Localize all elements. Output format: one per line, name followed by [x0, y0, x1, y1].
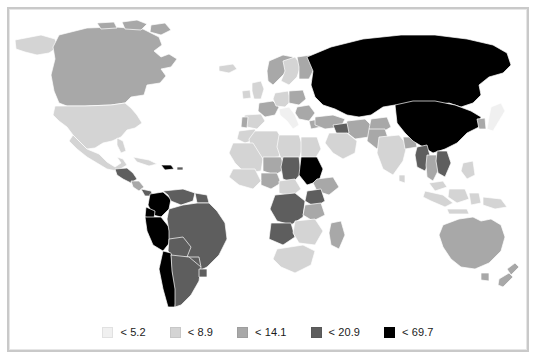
- country-korea: [477, 118, 486, 129]
- map-legend: < 5.2 < 8.9 < 14.1 < 20.9 < 69.7: [11, 318, 525, 346]
- legend-label-1: < 8.9: [188, 326, 213, 338]
- world-map-canvas: [11, 11, 525, 311]
- legend-swatch-icon-0: [102, 327, 113, 338]
- country-ireland: [242, 90, 251, 99]
- legend-label-2: < 14.1: [255, 326, 287, 338]
- country-portugal: [241, 117, 248, 128]
- legend-label-4: < 69.7: [402, 326, 434, 338]
- legend-item-1[interactable]: < 8.9: [170, 326, 213, 338]
- legend-item-2[interactable]: < 14.1: [237, 326, 287, 338]
- legend-swatch-icon-2: [237, 327, 248, 338]
- legend-item-4[interactable]: < 69.7: [384, 326, 434, 338]
- legend-swatch-icon-3: [311, 327, 322, 338]
- country-indonesia-java: [447, 209, 469, 214]
- legend-swatch-icon-4: [384, 327, 395, 338]
- country-uruguay: [199, 269, 207, 277]
- choropleth-map-figure: < 5.2 < 8.9 < 14.1 < 20.9 < 69.7: [0, 0, 536, 359]
- country-canada-arctic-3: [97, 22, 117, 29]
- legend-item-3[interactable]: < 20.9: [311, 326, 361, 338]
- country-puerto-rico: [177, 167, 183, 170]
- country-libya: [277, 135, 303, 159]
- legend-swatch-icon-1: [170, 327, 181, 338]
- legend-item-0[interactable]: < 5.2: [102, 326, 145, 338]
- country-indonesia-sulawesi: [469, 193, 481, 205]
- country-tasmania: [481, 273, 489, 281]
- world-map-svg: [11, 11, 525, 311]
- legend-label-3: < 20.9: [329, 326, 361, 338]
- legend-label-0: < 5.2: [120, 326, 145, 338]
